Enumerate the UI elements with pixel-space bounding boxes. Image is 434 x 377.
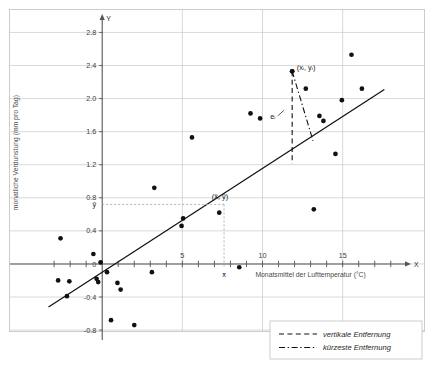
plot-frame — [10, 10, 425, 332]
y-tick-label-0: -0.8 — [84, 326, 96, 335]
data-point — [115, 281, 120, 286]
data-point — [98, 260, 103, 265]
x-axis-letter: X — [414, 261, 419, 268]
y-axis-title: monatliche Verdunstung (mm pro Tag) — [12, 95, 20, 210]
x-tick-label-2: 15 — [339, 251, 347, 260]
legend-label-0: vertikale Entfernung — [323, 330, 391, 339]
y-tick-label-1: -0.4 — [84, 293, 96, 302]
data-point — [303, 86, 308, 91]
y-tick-label-7: 2.0 — [86, 94, 96, 103]
axes-group: Y-0.8-0.400.40.81.21.62.02.42.8monatlich… — [10, 14, 419, 340]
x-axis-title: Monatsmittel der Lufttemperatur (°C) — [255, 271, 365, 279]
residual-leader-line — [278, 110, 285, 116]
data-point — [217, 210, 222, 215]
data-point — [67, 279, 72, 284]
data-point — [179, 224, 184, 229]
data-point — [321, 119, 326, 124]
data-point — [181, 216, 186, 221]
data-point — [65, 294, 70, 299]
data-point — [258, 116, 263, 121]
y-tick-label-6: 1.6 — [86, 127, 96, 136]
data-point-highlighted — [290, 69, 295, 74]
data-point — [58, 236, 63, 241]
shortest-distance-line — [292, 71, 313, 140]
y-tick-label-3: 0.4 — [86, 226, 96, 235]
data-point — [96, 280, 101, 285]
data-point — [56, 278, 61, 283]
data-point — [118, 287, 123, 292]
data-point — [152, 186, 157, 191]
data-point — [360, 86, 365, 91]
chart-svg: Y-0.8-0.400.40.81.21.62.02.42.8monatlich… — [0, 0, 434, 377]
y-tick-label-9: 2.8 — [86, 28, 96, 37]
x-tick-label-1: 10 — [259, 251, 267, 260]
scatter-plot-figure: Y-0.8-0.400.40.81.21.62.02.42.8monatlich… — [0, 0, 434, 377]
data-point — [340, 98, 345, 103]
data-point — [248, 111, 253, 116]
y-tick-label-8: 2.4 — [86, 61, 96, 70]
y-axis-arrow — [100, 14, 105, 20]
legend-label-1: kürzeste Entfernung — [323, 343, 392, 352]
gridlines-group — [10, 10, 424, 331]
data-point — [105, 270, 110, 275]
data-point — [190, 135, 195, 140]
residual-label: eᵢ — [270, 112, 275, 121]
data-point — [311, 207, 316, 212]
data-point — [317, 114, 322, 119]
x-tick-label-0: 5 — [180, 251, 184, 260]
data-point — [132, 323, 137, 328]
data-point — [333, 152, 338, 157]
y-tick-label-5: 1.2 — [86, 160, 96, 169]
data-point — [91, 252, 96, 257]
highlight-point-label: (xᵢ, yᵢ) — [297, 63, 316, 72]
x-axis-arrow — [405, 261, 411, 266]
mean-point-label: (x̄, ȳ) — [212, 192, 228, 201]
y-mean-label: ȳ — [93, 200, 97, 209]
data-point — [150, 270, 155, 275]
data-point — [237, 265, 242, 270]
data-point — [109, 318, 114, 323]
x-mean-label: x̄ — [222, 270, 226, 279]
legend: vertikale Entfernungkürzeste Entfernung — [270, 321, 422, 359]
data-point — [349, 52, 354, 57]
legend-box — [270, 321, 422, 359]
y-axis-letter: Y — [106, 15, 111, 22]
annotations-group: ȳx̄(x̄, ȳ)(xᵢ, yᵢ)eᵢ — [93, 63, 316, 280]
